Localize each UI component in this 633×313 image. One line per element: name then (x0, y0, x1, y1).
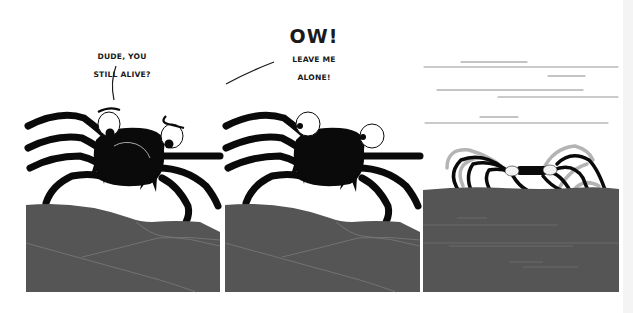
page-edge (623, 0, 633, 313)
panel-1-art (0, 0, 222, 313)
speech-tail (112, 66, 116, 100)
crab-pupil-right (165, 140, 174, 149)
crab-eye-right (543, 165, 557, 175)
rock (423, 187, 619, 292)
panel-3-art (423, 0, 619, 313)
crab-brow-left (98, 108, 120, 112)
speech-tail (226, 62, 274, 84)
crab-pupil-left (106, 129, 115, 138)
motion-lines (424, 62, 618, 123)
comic-strip: DUDE, YOU STILL ALIVE? (0, 0, 633, 313)
crab-pupil-right (360, 134, 366, 140)
crab-body (517, 166, 547, 175)
crab-pupil-left (297, 123, 303, 129)
comic-panel-3 (423, 0, 619, 313)
comic-panel-1: DUDE, YOU STILL ALIVE? (0, 0, 222, 313)
crab-eye-left (505, 166, 519, 176)
panel-2-art (224, 0, 422, 313)
comic-panel-2: OW! LEAVE ME ALONE! (224, 0, 422, 313)
